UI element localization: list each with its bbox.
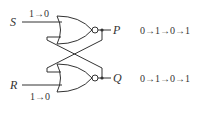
bottom-nor-bubble	[92, 75, 98, 81]
q-junction-dot	[100, 76, 103, 79]
q-label: Q	[113, 71, 122, 85]
top-nor-gate	[57, 16, 92, 44]
sr-latch-diagram: S 1→0 R 1→0 P 0→1→0→1 Q 0→1→0→1	[0, 0, 211, 115]
r-transition: 1→0	[30, 91, 50, 102]
feedback-p-to-bottom	[47, 30, 102, 72]
s-transition: 1→0	[29, 8, 49, 19]
bottom-nor-gate	[57, 64, 92, 92]
p-sequence: 0→1→0→1	[140, 25, 190, 36]
p-label: P	[112, 23, 121, 37]
q-sequence: 0→1→0→1	[140, 73, 190, 84]
s-label: S	[10, 15, 16, 29]
r-label: R	[9, 78, 18, 92]
top-nor-bubble	[92, 27, 98, 33]
p-junction-dot	[100, 28, 103, 31]
